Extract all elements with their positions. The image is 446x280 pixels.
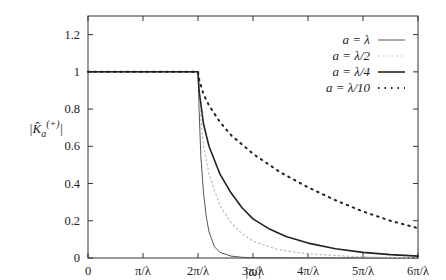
y-tick-label: 1: [74, 65, 80, 79]
x-tick-label: 0: [85, 264, 91, 278]
chart: 0π/λ2π/λ3π/λ4π/λ5π/λ6π/λ00.20.40.60.811.…: [0, 0, 446, 280]
legend-label: a = λ/10: [326, 80, 371, 95]
legend-label: a = λ: [343, 32, 371, 47]
y-tick-label: 0.4: [64, 177, 80, 191]
y-tick-label: 0: [74, 251, 80, 265]
series-line-3: [88, 72, 418, 256]
y-tick-label: 0.2: [64, 214, 80, 228]
series-line-4: [88, 72, 418, 228]
series-line-2: [88, 72, 418, 258]
x-tick-label: 4π/λ: [297, 264, 319, 278]
x-tick-label: 2π/λ: [187, 264, 209, 278]
y-tick-label: 1.2: [64, 28, 80, 42]
series-line-1: [88, 72, 418, 258]
x-tick-label: π/λ: [135, 264, 151, 278]
y-tick-label: 0.8: [64, 102, 80, 116]
legend-label: a = λ/4: [332, 64, 370, 79]
legend-label: a = λ/2: [332, 48, 370, 63]
x-tick-label: 6π/λ: [407, 264, 429, 278]
x-tick-label: 5π/λ: [352, 264, 374, 278]
x-axis-label: |ω|: [245, 264, 261, 279]
y-axis-label: |K̂a(+)|: [29, 118, 63, 139]
y-tick-label: 0.6: [64, 139, 80, 153]
